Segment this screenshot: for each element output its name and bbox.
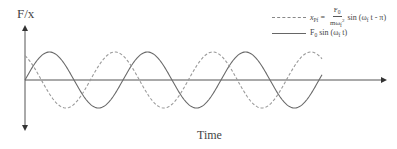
y-axis-label: F/x: [17, 6, 34, 22]
x-axis-label: Time: [197, 128, 222, 143]
amplitude-fraction: F0 mωf2: [330, 6, 344, 29]
legend-item-solid: F0 sin (ωf t): [272, 28, 347, 38]
equals-sign: =: [320, 13, 325, 22]
legend-solid-fn: F0 sin (ωf t): [310, 28, 347, 38]
legend-dashed-fn: sin (ωf t - π): [347, 13, 386, 23]
solid-line-swatch: [272, 33, 306, 34]
dashed-line-swatch: [272, 17, 306, 18]
legend-item-dashed: xPf = F0 mωf2 sin (ωf t - π): [272, 6, 386, 29]
legend-lhs: xPf: [310, 13, 318, 23]
